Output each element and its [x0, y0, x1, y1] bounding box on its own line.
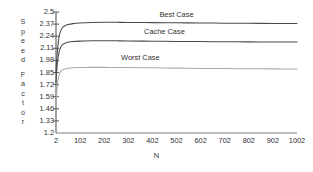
x-axis-tick-labels: 21022023024025026027028029021002	[0, 0, 313, 172]
x-axis-tick-label: 502	[170, 137, 182, 145]
x-axis-tick-label: 702	[219, 137, 231, 145]
speed-factor-line-chart: SpeedFactor 1.21.331.461.591.721.851.982…	[0, 0, 313, 172]
series-annotation-label: Worst Case	[121, 54, 159, 62]
series-annotation-label: Cache Case	[144, 28, 185, 36]
x-axis-tick-label: 902	[267, 137, 279, 145]
x-axis-tick-label: 802	[243, 137, 255, 145]
x-axis-tick-label: 302	[122, 137, 134, 145]
x-axis-tick-label: 602	[194, 137, 206, 145]
x-axis-tick-label: 202	[98, 137, 110, 145]
x-axis-label: N	[0, 151, 313, 160]
x-axis-tick-label: 102	[74, 137, 86, 145]
x-axis-tick-label: 2	[54, 137, 58, 145]
series-annotation-label: Best Case	[159, 11, 193, 19]
x-axis-tick-label: 402	[146, 137, 158, 145]
x-axis-tick-label: 1002	[289, 137, 305, 145]
